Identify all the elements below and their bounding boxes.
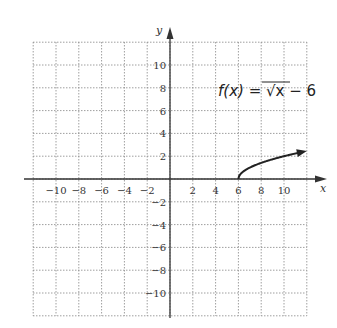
svg-text:2: 2 [160,151,166,162]
svg-text:−10: −10 [145,288,166,299]
svg-text:−2: −2 [151,197,166,208]
radical-sign: √ [266,82,276,100]
x-axis-label: x [320,182,327,195]
svg-text:6: 6 [160,106,166,117]
svg-text:4: 4 [212,185,218,196]
y-axis-label: y [155,24,163,37]
svg-text:−4: −4 [117,185,132,196]
function-curve [238,149,306,179]
svg-text:2: 2 [190,185,196,196]
svg-text:6: 6 [235,185,241,196]
function-label: f(x) = √x − 6 [218,82,316,100]
svg-text:−10: −10 [45,185,66,196]
axes [24,27,327,318]
svg-text:−8: −8 [71,185,86,196]
svg-text:−6: −6 [94,185,109,196]
chart-canvas: −10−8−6−4−2246810108642−2−4−6−8−10 x y f… [0,0,337,328]
svg-text:4: 4 [160,128,166,139]
function-lhs: f(x) = [218,82,266,100]
svg-text:−8: −8 [151,265,166,276]
radicand: x − 6 [276,82,317,100]
svg-text:10: 10 [153,60,166,71]
svg-text:10: 10 [278,185,291,196]
curve-arrowhead-icon [296,149,307,157]
svg-text:−6: −6 [151,242,166,253]
svg-text:8: 8 [258,185,264,196]
svg-text:8: 8 [160,83,166,94]
svg-text:−2: −2 [140,185,155,196]
svg-text:−4: −4 [151,220,166,231]
